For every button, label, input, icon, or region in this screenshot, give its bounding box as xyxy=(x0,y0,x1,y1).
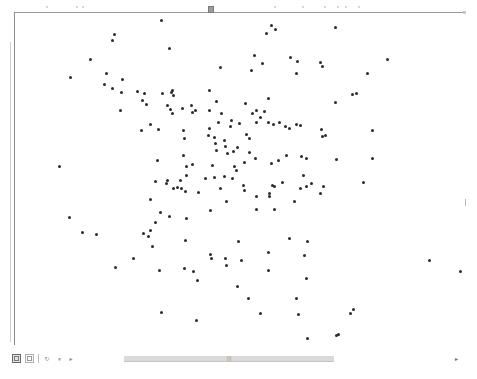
data-point xyxy=(217,121,220,124)
data-point xyxy=(352,308,355,311)
data-point xyxy=(428,259,431,262)
data-point xyxy=(242,184,245,187)
data-point xyxy=(111,87,114,90)
data-point xyxy=(95,233,98,236)
data-point xyxy=(351,93,354,96)
page-button[interactable] xyxy=(25,354,34,363)
data-point xyxy=(334,101,337,104)
data-point xyxy=(168,47,171,50)
data-point xyxy=(263,110,266,113)
data-point xyxy=(459,270,462,273)
data-point xyxy=(89,58,92,61)
data-point xyxy=(225,264,228,267)
data-point xyxy=(184,190,187,193)
data-point xyxy=(305,157,308,160)
data-point xyxy=(197,191,200,194)
scatter-canvas[interactable] xyxy=(0,0,477,345)
data-point xyxy=(267,269,270,272)
data-point xyxy=(149,198,152,201)
refresh-icon[interactable]: ↻ xyxy=(43,354,51,363)
data-point xyxy=(300,155,303,158)
data-point xyxy=(207,134,210,137)
data-point xyxy=(235,169,238,172)
data-point xyxy=(267,121,270,124)
pause-icon[interactable]: ⏸ xyxy=(55,354,63,363)
data-point xyxy=(288,127,291,130)
data-point xyxy=(165,182,168,185)
data-point xyxy=(119,109,122,112)
data-point xyxy=(209,253,212,256)
data-point xyxy=(140,129,143,132)
data-point xyxy=(255,121,258,124)
data-point xyxy=(289,56,292,59)
data-point xyxy=(355,92,358,95)
data-point xyxy=(371,157,374,160)
data-point xyxy=(208,127,211,130)
data-point xyxy=(230,119,233,122)
data-point xyxy=(299,187,302,190)
data-point xyxy=(136,90,139,93)
vertical-scroll-marker[interactable] xyxy=(465,199,466,206)
data-point xyxy=(259,312,262,315)
data-point xyxy=(296,60,299,63)
data-point xyxy=(322,185,325,188)
data-point xyxy=(251,112,254,115)
horizontal-scrollbar[interactable]: ||| xyxy=(124,356,454,362)
data-point xyxy=(161,92,164,95)
data-point xyxy=(267,251,270,254)
data-point xyxy=(305,277,308,280)
data-point xyxy=(303,254,306,257)
data-point xyxy=(245,133,248,136)
bottom-toolbar: ↻ ⏸ ▸ xyxy=(12,352,75,364)
data-point xyxy=(334,26,337,29)
data-point xyxy=(335,158,338,161)
data-point xyxy=(250,69,253,72)
scrollbar-thumb[interactable]: ||| xyxy=(124,356,334,362)
data-point xyxy=(171,112,174,115)
data-point xyxy=(213,176,216,179)
data-point xyxy=(247,297,250,300)
data-point xyxy=(68,216,71,219)
data-point xyxy=(172,187,175,190)
data-point xyxy=(214,142,217,145)
data-point xyxy=(176,186,179,189)
data-point xyxy=(183,137,186,140)
toolbar-divider xyxy=(38,354,39,363)
data-point xyxy=(295,72,298,75)
data-point xyxy=(255,208,258,211)
data-point xyxy=(169,108,172,111)
data-point xyxy=(81,231,84,234)
data-point xyxy=(196,279,199,282)
data-point xyxy=(305,185,308,188)
data-point xyxy=(272,123,275,126)
data-point xyxy=(274,28,277,31)
grid-view-icon xyxy=(14,356,19,361)
data-point xyxy=(243,161,246,164)
page-icon xyxy=(27,356,32,361)
data-point xyxy=(154,180,157,183)
data-point xyxy=(243,189,246,192)
play-icon[interactable]: ▸ xyxy=(67,354,75,363)
data-point xyxy=(190,104,193,107)
data-point xyxy=(143,92,146,95)
data-point xyxy=(69,76,72,79)
scroll-right-arrow-icon[interactable]: ▸ xyxy=(455,356,460,362)
data-point xyxy=(145,103,148,106)
data-point xyxy=(208,109,211,112)
data-point xyxy=(310,182,313,185)
data-point xyxy=(192,270,195,273)
data-point xyxy=(265,32,268,35)
data-point xyxy=(132,257,135,260)
data-point xyxy=(295,297,298,300)
data-point xyxy=(362,181,365,184)
view-toggle-button[interactable] xyxy=(12,354,21,363)
data-point xyxy=(273,185,276,188)
data-point xyxy=(259,116,262,119)
scrollbar-grip-icon: ||| xyxy=(226,356,231,361)
data-point xyxy=(208,89,211,92)
data-point xyxy=(223,175,226,178)
data-point xyxy=(321,65,324,68)
data-point xyxy=(160,311,163,314)
data-point xyxy=(183,267,186,270)
data-point xyxy=(277,159,280,162)
